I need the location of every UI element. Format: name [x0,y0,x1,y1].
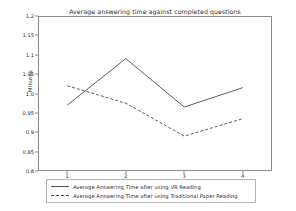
y-tick-label: 1.1 [12,52,34,58]
y-tick-mark [35,112,38,113]
x-tick-mark [184,171,185,174]
y-axis-label: Minutes [27,58,33,104]
plot-area [38,16,272,171]
legend-label-vr-reading: Average Answering Time after using VR Re… [73,184,201,190]
x-tick-mark [67,171,68,174]
y-tick-mark [35,132,38,133]
legend-line-solid-icon [51,183,69,190]
chart-title: Average answering time against completed… [38,8,272,15]
y-tick-mark [35,93,38,94]
legend-item-paper-reading: Average Answering Time after using Tradi… [51,191,251,200]
y-tick-label: 1.2 [12,13,34,19]
chart-figure: Average answering time against completed… [0,0,296,211]
y-tick-mark [35,74,38,75]
y-tick-mark [35,35,38,36]
legend-label-paper-reading: Average Answering Time after using Tradi… [73,193,238,199]
y-tick-label: 1.15 [12,32,34,38]
y-tick-label: 0.95 [12,110,34,116]
x-tick-mark [242,171,243,174]
y-tick-mark [35,151,38,152]
y-tick-label: 0.9 [12,129,34,135]
legend-line-dashed-icon [51,192,69,199]
y-tick-mark [35,54,38,55]
y-tick-label: 0.8 [12,168,34,174]
legend-item-vr-reading: Average Answering Time after using VR Re… [51,182,251,191]
y-tick-label: 0.85 [12,149,34,155]
y-tick-mark [35,171,38,172]
x-tick-mark [125,171,126,174]
y-tick-label: 1.05 [12,71,34,77]
y-tick-label: 1.0 [12,91,34,97]
y-tick-mark [35,16,38,17]
chart-legend: Average Answering Time after using VR Re… [46,179,256,203]
